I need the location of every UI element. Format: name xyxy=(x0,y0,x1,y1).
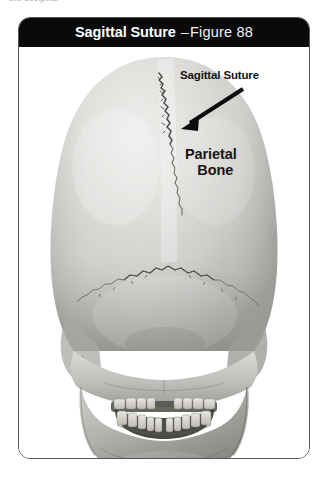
skull-photograph: Sagittal Suture Parietal Bone xyxy=(19,47,309,458)
parietal-bone-label: Parietal Bone xyxy=(185,146,237,178)
parietal-bone-label-line1: Parietal xyxy=(185,146,237,162)
figure-illustration-area: Sagittal Suture Parietal Bone xyxy=(19,47,309,458)
skull-posterior-view-image xyxy=(19,47,309,458)
top-cutoff-text: the occipital xyxy=(9,0,129,4)
sagittal-suture-label: Sagittal Suture xyxy=(180,69,259,82)
figure-number-label: Figure 88 xyxy=(190,24,253,40)
figure-card: Sagittal Suture–Figure 88 xyxy=(18,17,310,459)
figure-title-main: Sagittal Suture xyxy=(75,24,176,40)
figure-title-bar: Sagittal Suture–Figure 88 xyxy=(18,17,310,47)
figure-title-separator: – xyxy=(176,24,190,40)
figure-title: Sagittal Suture–Figure 88 xyxy=(75,25,253,40)
cranial-vault xyxy=(19,47,309,367)
parietal-bone-label-line2: Bone xyxy=(185,162,237,178)
